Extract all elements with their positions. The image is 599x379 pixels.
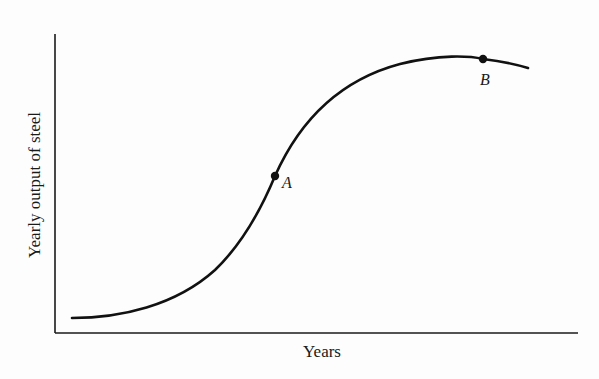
point-a-label: A (281, 174, 292, 191)
s-curve-chart: A B Years Yearly output of steel (0, 0, 599, 379)
point-b-marker (479, 55, 487, 63)
growth-curve (72, 57, 528, 318)
point-a-marker (271, 172, 279, 180)
x-axis-title: Years (303, 342, 341, 361)
point-b-label: B (480, 71, 490, 88)
y-axis-title: Yearly output of steel (25, 112, 44, 258)
